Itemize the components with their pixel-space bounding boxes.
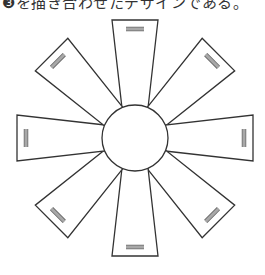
radial-design-figure <box>0 0 265 275</box>
center-circle <box>102 105 168 171</box>
radial-panel <box>147 38 235 126</box>
radial-panel <box>17 115 105 161</box>
radial-panel <box>112 20 158 108</box>
radial-panel <box>112 168 158 256</box>
radial-panel <box>35 38 123 126</box>
radial-panel <box>165 115 253 161</box>
radial-panel <box>35 150 123 238</box>
radial-panel <box>147 150 235 238</box>
